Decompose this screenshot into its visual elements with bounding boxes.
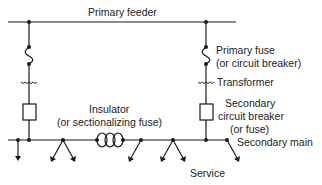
primary-fuse-sublabel: (or circuit breaker) — [216, 57, 301, 69]
secondary-breaker-note: (or fuse) — [230, 123, 269, 135]
transformer-label: Transformer — [217, 76, 274, 88]
right-primary-fuse-icon — [202, 47, 210, 64]
primary-fuse-label: Primary fuse — [216, 44, 275, 56]
secondary-breaker-label: Secondary — [225, 97, 275, 109]
left-primary-fuse-icon — [25, 47, 33, 64]
left-branch — [21, 22, 37, 140]
insulator-icon — [97, 133, 123, 147]
service-label: Service — [190, 167, 225, 179]
secondary-breaker-sublabel: circuit breaker — [218, 110, 284, 122]
primary-feeder-label: Primary feeder — [88, 6, 157, 18]
left-secondary-breaker-icon — [23, 104, 36, 120]
service-drops — [18, 140, 237, 158]
distribution-diagram — [0, 0, 322, 185]
right-secondary-breaker-icon — [200, 104, 213, 120]
service-arrowheads — [15, 156, 240, 162]
right-branch — [198, 22, 214, 140]
secondary-main-label: Secondary main — [237, 136, 313, 148]
insulator-label: Insulator — [89, 103, 129, 115]
insulator-sublabel: (or sectionalizing fuse) — [57, 116, 162, 128]
